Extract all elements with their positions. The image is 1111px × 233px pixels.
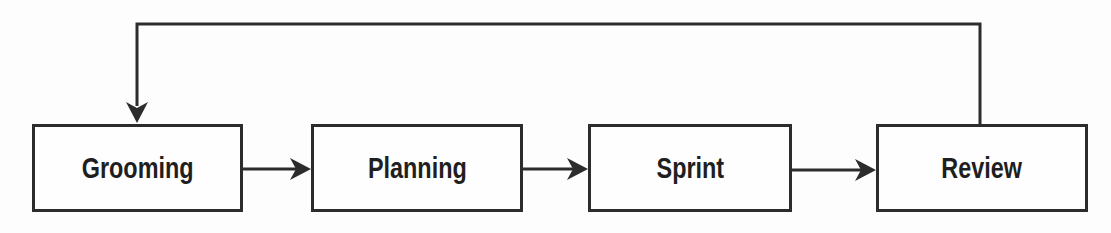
node-sprint: Sprint <box>588 124 792 212</box>
flowchart-diagram: Grooming Planning Sprint Review <box>0 0 1111 233</box>
node-grooming: Grooming <box>32 124 243 212</box>
node-planning: Planning <box>311 124 523 212</box>
node-grooming-label: Grooming <box>82 151 194 185</box>
edge-review-to-grooming-line <box>137 24 980 124</box>
node-planning-label: Planning <box>368 151 467 185</box>
node-review: Review <box>876 124 1088 212</box>
node-review-label: Review <box>942 151 1023 185</box>
node-sprint-label: Sprint <box>656 151 724 185</box>
